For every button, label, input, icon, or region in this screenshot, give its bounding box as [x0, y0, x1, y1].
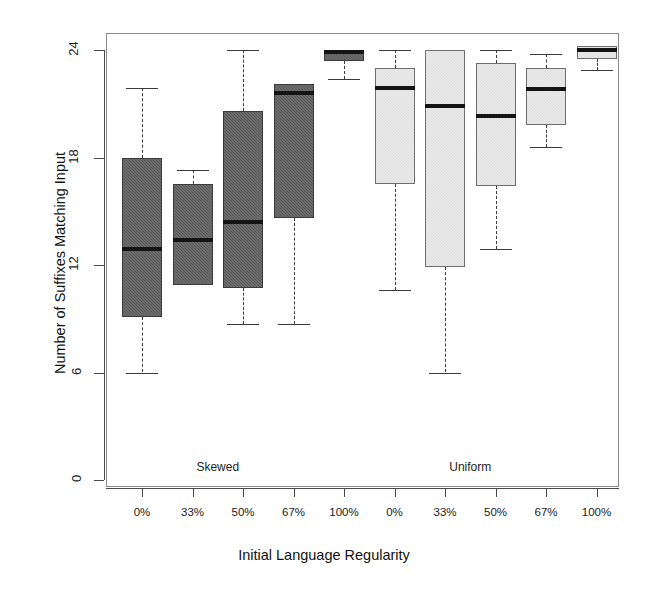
whisker-cap-upper — [126, 88, 158, 89]
y-tick-label: 6 — [0, 364, 80, 379]
whisker-lower — [243, 288, 244, 324]
x-tick-mark — [193, 488, 194, 497]
x-axis-line — [106, 488, 619, 489]
median-line — [526, 87, 566, 91]
box-iqr — [526, 68, 566, 125]
group-label-skewed: Skewed — [148, 460, 288, 474]
x-tick-mark — [395, 488, 396, 497]
box-iqr — [122, 158, 162, 317]
whisker-cap-lower — [480, 249, 512, 250]
whisker-lower — [294, 218, 295, 324]
y-tick-mark — [94, 265, 104, 266]
whisker-cap-lower — [530, 147, 562, 148]
whisker-cap-lower — [581, 70, 613, 71]
y-tick-label-text: 0 — [69, 475, 84, 482]
whisker-lower — [445, 267, 446, 373]
whisker-lower — [546, 125, 547, 147]
whisker-cap-lower — [126, 373, 158, 374]
x-tick-mark — [142, 488, 143, 497]
whisker-cap-lower — [328, 79, 360, 80]
whisker-cap-lower — [379, 290, 411, 291]
y-tick-mark — [94, 373, 104, 374]
whisker-lower — [344, 61, 345, 79]
whisker-cap-upper — [530, 54, 562, 55]
y-tick-mark — [94, 158, 104, 159]
y-tick-label-text: 6 — [69, 367, 84, 374]
whisker-cap-upper — [379, 50, 411, 51]
x-tick-mark — [496, 488, 497, 497]
whisker-upper — [546, 54, 547, 68]
x-tick-mark — [445, 488, 446, 497]
whisker-cap-lower — [227, 324, 259, 325]
x-tick-mark — [546, 488, 547, 497]
x-tick-label: 100% — [567, 506, 627, 518]
whisker-upper — [496, 50, 497, 63]
y-axis-line — [104, 50, 105, 480]
whisker-cap-lower — [429, 373, 461, 374]
whisker-lower — [142, 317, 143, 373]
y-tick-mark — [94, 480, 104, 481]
median-line — [375, 86, 415, 90]
boxplot-figure: 06121824 Number of Suffixes Matching Inp… — [0, 0, 648, 599]
median-line — [476, 114, 516, 118]
group-label-uniform: Uniform — [400, 460, 540, 474]
y-tick-label: 0 — [0, 471, 80, 486]
whisker-cap-upper — [227, 50, 259, 51]
whisker-upper — [395, 50, 396, 68]
y-tick-mark — [94, 50, 104, 51]
median-line — [324, 50, 364, 54]
median-line — [223, 220, 263, 224]
whisker-lower — [395, 184, 396, 290]
box-iqr — [476, 63, 516, 187]
x-tick-mark — [294, 488, 295, 497]
whisker-cap-upper — [177, 170, 209, 171]
y-tick-label: 24 — [0, 41, 80, 56]
whisker-cap-upper — [480, 50, 512, 51]
median-line — [274, 91, 314, 95]
whisker-upper — [142, 88, 143, 158]
whisker-cap-lower — [278, 324, 310, 325]
whisker-upper — [243, 50, 244, 111]
y-tick-label: 12 — [0, 256, 80, 271]
whisker-lower — [496, 186, 497, 249]
y-axis-title: Number of Suffixes Matching Input — [52, 53, 68, 473]
box-iqr — [173, 184, 213, 284]
median-line — [173, 238, 213, 242]
x-tick-mark — [597, 488, 598, 497]
whisker-upper — [193, 170, 194, 184]
box-iqr — [223, 111, 263, 288]
x-axis-title: Initial Language Regularity — [0, 547, 648, 563]
median-line — [577, 48, 617, 52]
median-line — [425, 104, 465, 108]
median-line — [122, 247, 162, 251]
x-tick-mark — [243, 488, 244, 497]
box-iqr — [425, 50, 465, 267]
whisker-lower — [597, 59, 598, 70]
y-tick-label: 18 — [0, 149, 80, 164]
x-tick-mark — [344, 488, 345, 497]
box-iqr — [274, 84, 314, 218]
